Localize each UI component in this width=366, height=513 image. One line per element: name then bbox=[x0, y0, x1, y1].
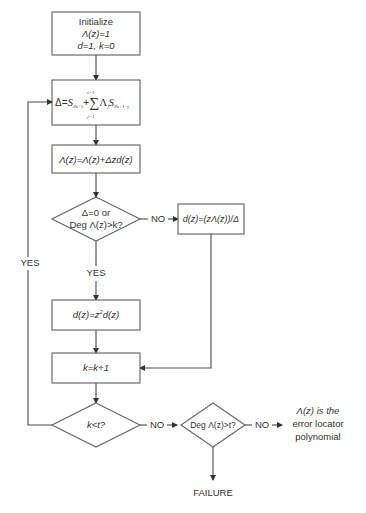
init-label: Initialize bbox=[79, 16, 113, 27]
edge-d2-yes-a bbox=[28, 270, 52, 425]
result-line2: error locator bbox=[292, 418, 343, 429]
init-dk: d=1, k=0 bbox=[78, 40, 116, 51]
edge-d2-yes-b bbox=[28, 102, 52, 257]
d3-no-label: NO bbox=[255, 419, 269, 430]
flowchart-canvas: Initialize Λ(z)=1 d=1, k=0 Δ=S2k+1+∑ΛjS2… bbox=[0, 0, 366, 513]
dz-shift-box: d(z)=z2d(z) bbox=[52, 300, 140, 330]
d1-yes-label: YES bbox=[86, 267, 105, 278]
dz-divide-label: d(z)=(zΛ(z))/Δ bbox=[183, 214, 239, 224]
decision1-line1: Δ=0 or bbox=[82, 207, 110, 218]
decision1-line2: Deg Λ(z)>k? bbox=[69, 219, 122, 230]
init-lambda: Λ(z)=1 bbox=[81, 28, 110, 39]
result-text: Λ(z) is the error locator polynomial bbox=[292, 405, 343, 442]
lambda-update-box: Λ(z)=Λ(z)+Δzd(z) bbox=[52, 145, 140, 173]
k-increment-box: k=k+1 bbox=[52, 353, 140, 383]
d2-yes-label: YES bbox=[20, 257, 39, 268]
decision-k-less-t: k<t? bbox=[52, 403, 140, 447]
sigma-upper: t−1 bbox=[87, 90, 94, 95]
initialize-box: Initialize Λ(z)=1 d=1, k=0 bbox=[52, 12, 140, 55]
update-label: Λ(z)=Λ(z)+Δzd(z) bbox=[58, 154, 132, 165]
discrepancy-box: Δ=S2k+1+∑ΛjS2k+1−j t−1 j=1 bbox=[52, 80, 140, 125]
k-increment-label: k=k+1 bbox=[83, 362, 109, 373]
decision-degree-gt-t: Deg Λ(z)>t? bbox=[181, 403, 245, 447]
d2-no-label: NO bbox=[150, 419, 164, 430]
edge-dzdiv-to-kinc bbox=[140, 234, 211, 368]
decision-delta-zero: Δ=0 or Deg Λ(z)>k? bbox=[52, 197, 140, 241]
decision2-label: k<t? bbox=[87, 419, 106, 430]
result-line1: Λ(z) is the bbox=[296, 405, 340, 416]
sigma-lower: j=1 bbox=[86, 114, 94, 119]
dz-divide-box: d(z)=(zΛ(z))/Δ bbox=[178, 204, 244, 234]
d1-no-label: NO bbox=[151, 213, 165, 224]
result-line3: polynomial bbox=[295, 431, 340, 442]
dz-shift-label: d(z)=z2d(z) bbox=[73, 309, 119, 320]
decision3-label: Deg Λ(z)>t? bbox=[190, 420, 236, 430]
failure-label: FAILURE bbox=[193, 487, 233, 498]
